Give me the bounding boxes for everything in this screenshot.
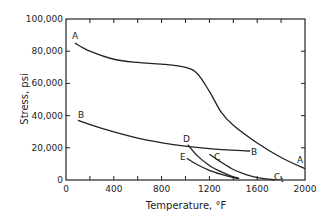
y-tick-label: 60,000 [32,78,64,88]
curve-e-label: E [180,152,186,162]
y-tick-label: 20,000 [32,143,64,153]
y-tick-label: 80,000 [32,46,64,56]
curve-a [75,43,305,169]
x-tick-label: 1200 [198,184,221,194]
curve-a-label-start: A [72,31,79,41]
curve-b [78,120,250,151]
x-tick-label: 800 [153,184,170,194]
axis-ticks: 0400800120016002000020,00040,00060,00080… [26,14,317,194]
y-tick-label: 0 [57,175,63,185]
curve-b-label-start: B [78,110,84,120]
curve-a-label-end: A [297,155,304,165]
x-tick-label: 1600 [246,184,269,194]
stress-temperature-chart: 0400800120016002000020,00040,00060,00080… [0,0,330,216]
curve-d-label: D [183,134,190,144]
y-axis-label: Stress, psi [19,73,30,124]
x-tick-label: 0 [63,184,69,194]
curve-b-label-end: B [251,147,257,157]
curve-c-label: C [214,152,220,162]
x-tick-label: 400 [105,184,122,194]
x-tick-label: 2000 [294,184,317,194]
curves [75,43,305,180]
x-axis-label: Temperature, °F [145,200,227,211]
y-tick-label: 100,000 [26,14,63,24]
y-tick-label: 40,000 [32,111,64,121]
curve-c1-label: C1 [274,172,284,183]
